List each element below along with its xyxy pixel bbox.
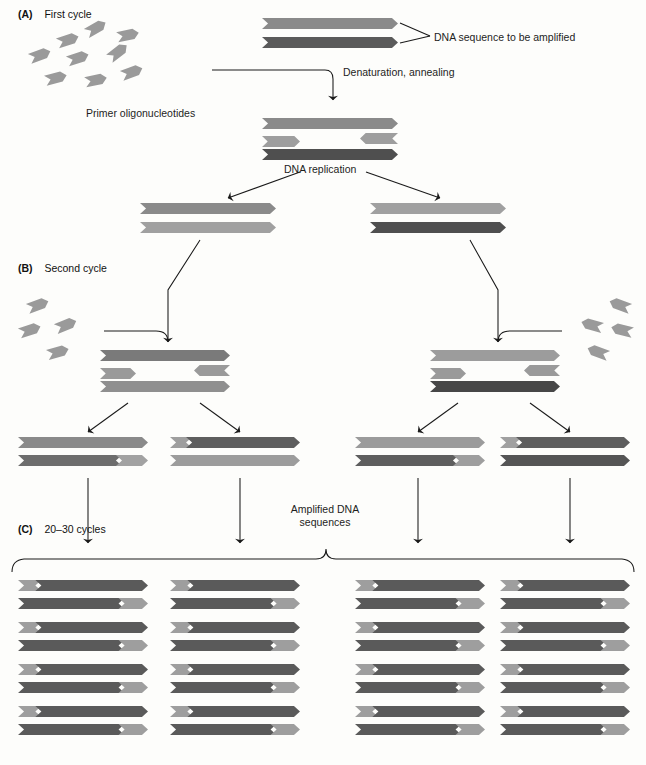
cycle2-product-bottom-strand: [500, 455, 630, 466]
amplified-duplex-bottom-strand: [170, 724, 300, 735]
amplified-duplex-top-strand: [170, 664, 300, 675]
amplified-duplex-bottom-strand: [18, 724, 148, 735]
primer-oligonucleotide: [66, 50, 90, 67]
primer-oligonucleotide: [54, 316, 78, 334]
primer-oligonucleotide: [608, 296, 632, 313]
strand-segment: [262, 18, 398, 29]
primer-shape-wrap: [116, 28, 140, 43]
annealed-template-bottom: [262, 149, 398, 160]
primer-shape-wrap: [66, 50, 90, 67]
descender-left: [168, 240, 200, 342]
strand-segment: [430, 381, 560, 392]
strand-segment: [355, 682, 462, 693]
primer-shape: [586, 343, 610, 360]
strand-segment: [187, 622, 300, 633]
replication-arrow-left: [228, 172, 300, 198]
amplified-duplex-top-strand: [170, 622, 300, 633]
primer-oligonucleotide: [580, 317, 604, 333]
annealed-template-top: [262, 118, 398, 129]
amplified-duplex-bottom-strand: [18, 598, 148, 609]
strand-segment: [186, 437, 300, 448]
primer-shape-wrap: [610, 322, 634, 337]
strand-segment: [500, 455, 630, 466]
primer-shape: [194, 365, 230, 376]
amplified-duplex-top-strand: [18, 622, 148, 633]
strand-segment: [187, 706, 300, 717]
strand-segment: [601, 724, 630, 735]
strand-segment: [170, 640, 277, 651]
primer-shape: [18, 322, 42, 339]
primer-shape: [116, 28, 140, 43]
primer-shape-wrap: [26, 296, 50, 313]
amplified-sequences-brace: [12, 549, 634, 572]
cycle2-product-bottom-strand: [170, 455, 300, 466]
primer-feed-line-b-left: [104, 331, 168, 342]
amplified-duplex-bottom-strand: [355, 598, 485, 609]
strand-segment: [18, 682, 125, 693]
template-strand-bottom: [262, 37, 398, 48]
primer-shape-wrap: [18, 322, 42, 339]
primer-shape-wrap: [46, 344, 70, 360]
strand-segment: [100, 350, 230, 361]
primer-shape: [66, 50, 90, 67]
amplified-duplex-top-strand: [355, 580, 485, 591]
primer-shape-wrap: [120, 63, 144, 80]
amplified-duplex-bottom-strand: [18, 682, 148, 693]
amplified-duplex-top-strand: [500, 622, 630, 633]
strand-segment: [119, 598, 148, 609]
amplified-duplex-bottom-strand: [500, 682, 630, 693]
amplified-duplex-bottom-strand: [355, 682, 485, 693]
strand-segment: [355, 455, 459, 466]
primer-shape: [84, 18, 108, 38]
primer-shape: [26, 296, 50, 313]
strand-segment: [517, 580, 630, 591]
strand-segment: [271, 724, 300, 735]
diagram-canvas: [0, 0, 646, 765]
primer-oligonucleotide: [46, 344, 70, 360]
primer-oligonucleotide-pools: [18, 18, 634, 361]
amplified-duplex-bottom-strand: [355, 640, 485, 651]
primer-oligonucleotide: [116, 28, 140, 43]
amplified-duplex-bottom-strand: [500, 640, 630, 651]
annealed-primer-left: [262, 136, 300, 147]
descender-right: [470, 240, 498, 342]
primer-shape: [56, 32, 80, 49]
strand-segment: [35, 706, 148, 717]
amplified-duplex-bottom-strand: [170, 640, 300, 651]
strand-segment: [170, 682, 277, 693]
primer-shape-wrap: [580, 317, 604, 333]
primer-shape-wrap: [84, 73, 108, 88]
annealed-primer-right: [360, 133, 398, 144]
strand-segment: [517, 706, 630, 717]
strand-segment: [18, 437, 148, 448]
replication-arrow-right: [366, 172, 440, 198]
strand-segment: [370, 222, 506, 233]
strand-segment: [500, 598, 607, 609]
strand-segment: [140, 222, 276, 233]
strand-segment: [517, 622, 630, 633]
strand-segment: [517, 664, 630, 675]
primer-oligonucleotide: [44, 70, 68, 86]
cycle2-product-top-strand: [355, 437, 485, 448]
strand-segment: [601, 640, 630, 651]
strand-segment: [18, 598, 125, 609]
strand-segment: [18, 640, 125, 651]
strand-segment: [140, 203, 276, 214]
strand-segment: [500, 724, 607, 735]
strand-segment: [456, 724, 485, 735]
strand-segment: [271, 598, 300, 609]
primer-shape: [84, 73, 108, 88]
strand-segment: [372, 580, 485, 591]
cycle2-product-top-strand: [500, 437, 630, 448]
primer-shape-wrap: [28, 46, 52, 63]
strand-segment: [453, 455, 485, 466]
panelb-left-primer-left: [100, 368, 136, 379]
strand-segment: [35, 622, 148, 633]
leader-line-bottom: [400, 36, 430, 43]
cycle1-product-right-bottom: [370, 222, 506, 233]
primer-oligonucleotide: [18, 322, 42, 339]
amplified-duplex-bottom-strand: [355, 724, 485, 735]
strand-segment: [370, 203, 506, 214]
amplified-duplex-top-strand: [170, 580, 300, 591]
primer-oligonucleotide: [26, 296, 50, 313]
